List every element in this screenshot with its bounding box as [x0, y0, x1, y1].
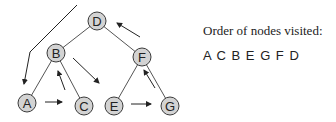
tree-node-b: B [47, 44, 65, 62]
traversal-arrow-start-a [24, 5, 77, 84]
traversal-arrow-g-f [144, 70, 155, 88]
traversal-order: A C B E G F D [203, 48, 300, 63]
node-label: D [92, 14, 101, 29]
node-label: F [138, 50, 146, 65]
traversal-caption: Order of nodes visited: [203, 23, 323, 39]
node-label: E [110, 99, 119, 114]
node-label: A [23, 96, 32, 111]
traversal-arrow-f-d [117, 23, 140, 37]
tree-node-a: A [18, 94, 36, 112]
node-label: B [52, 46, 61, 61]
node-label: C [79, 99, 88, 114]
tree-node-f: F [133, 48, 151, 66]
traversal-arrow-b-e [73, 58, 99, 83]
tree-node-d: D [88, 12, 106, 30]
tree-node-e: E [105, 97, 123, 115]
traversal-arrow-c-b [58, 71, 65, 90]
binary-tree-diagram: DBFACEG [0, 0, 200, 122]
tree-node-g: G [161, 97, 179, 115]
tree-node-c: C [75, 97, 93, 115]
node-label: G [165, 99, 175, 114]
